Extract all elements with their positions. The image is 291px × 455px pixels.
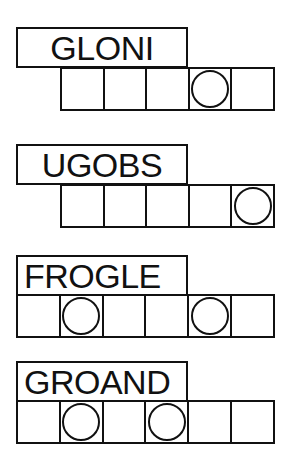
circle-marker-icon [191, 297, 229, 335]
answer-cell[interactable] [102, 402, 145, 442]
circle-marker-icon [191, 70, 229, 108]
answer-cell[interactable] [230, 402, 273, 442]
scrambled-word-label: GLONI [16, 27, 188, 68]
answer-cell[interactable] [145, 186, 188, 226]
answer-cell[interactable] [230, 296, 273, 336]
answer-cell[interactable] [144, 296, 187, 336]
answer-cells [60, 184, 275, 228]
answer-cell[interactable] [188, 186, 231, 226]
answer-cell-circled[interactable] [59, 402, 102, 442]
scrambled-word-label: GROAND [16, 361, 188, 402]
answer-cell[interactable] [145, 69, 188, 109]
answer-cell[interactable] [102, 296, 145, 336]
answer-cells [16, 294, 275, 338]
answer-cell[interactable] [18, 296, 59, 336]
answer-cell[interactable] [103, 186, 146, 226]
circle-marker-icon [62, 403, 100, 441]
scrambled-word-label: UGOBS [16, 144, 188, 185]
circle-marker-icon [148, 403, 186, 441]
answer-cell[interactable] [230, 69, 273, 109]
answer-cell[interactable] [62, 69, 103, 109]
answer-cell-circled[interactable] [187, 296, 230, 336]
answer-cell[interactable] [187, 402, 230, 442]
answer-cells [16, 400, 275, 444]
answer-cell[interactable] [18, 402, 59, 442]
circle-marker-icon [62, 297, 100, 335]
answer-cell-circled[interactable] [230, 186, 273, 226]
answer-cells [60, 67, 275, 111]
answer-cell-circled[interactable] [144, 402, 187, 442]
answer-cell[interactable] [103, 69, 146, 109]
answer-cell[interactable] [62, 186, 103, 226]
circle-marker-icon [234, 187, 272, 225]
answer-cell-circled[interactable] [188, 69, 231, 109]
answer-cell-circled[interactable] [59, 296, 102, 336]
scrambled-word-label: FROGLE [16, 255, 188, 296]
